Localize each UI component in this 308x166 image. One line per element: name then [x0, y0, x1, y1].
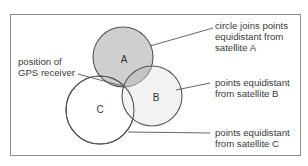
annotation-line: from satellite B — [215, 88, 290, 99]
leader-line-b — [176, 83, 210, 90]
satellite-a-annotation: circle joins points equidistant from sat… — [215, 20, 288, 53]
gps-receiver-annotation: position of GPS receiver — [18, 56, 75, 78]
satellite-b-annotation: points equidistant from satellite B — [215, 77, 290, 99]
annotation-line: position of — [18, 56, 75, 67]
annotation-line: points equidistant — [215, 77, 290, 88]
annotation-line: equidistant from — [215, 31, 288, 42]
annotation-line: points equidistant — [215, 127, 290, 138]
circle-a-label: A — [121, 54, 128, 65]
annotation-line: circle joins points — [215, 20, 288, 31]
circle-b-label: B — [153, 92, 160, 103]
leader-line-a — [150, 28, 213, 46]
annotation-line: satellite A — [215, 42, 288, 53]
annotation-line: from satellite C — [215, 138, 290, 149]
circle-c-label: C — [96, 104, 103, 115]
annotation-line: GPS receiver — [18, 67, 75, 78]
satellite-c-annotation: points equidistant from satellite C — [215, 127, 290, 149]
leader-line-c — [128, 132, 210, 133]
